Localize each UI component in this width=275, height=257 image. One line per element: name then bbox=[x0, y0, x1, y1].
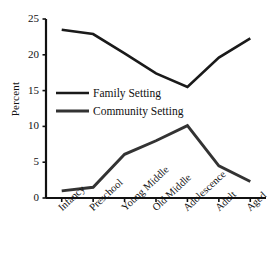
legend-swatch-group bbox=[56, 93, 89, 111]
y-axis-tick-label: 5 bbox=[15, 156, 39, 167]
legend-label-2: Community Setting bbox=[93, 105, 183, 117]
line-chart: Percent 0510152025 InfancyPreschoolYoung… bbox=[0, 0, 275, 257]
series-line-1 bbox=[62, 30, 251, 87]
y-axis-tick-label: 25 bbox=[15, 13, 39, 24]
chart-plot-area bbox=[0, 0, 275, 257]
y-axis-tick-label: 0 bbox=[15, 192, 39, 203]
y-axis-tick-label: 20 bbox=[15, 49, 39, 60]
y-axis-tick-label: 10 bbox=[15, 120, 39, 131]
y-axis-tick-label: 15 bbox=[15, 85, 39, 96]
legend-label-1: Family Setting bbox=[93, 87, 161, 99]
